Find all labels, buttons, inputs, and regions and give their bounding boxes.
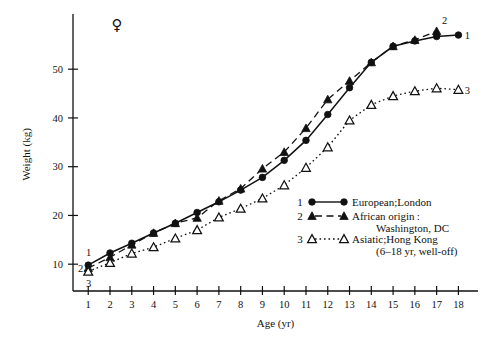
series-3-point xyxy=(214,213,223,221)
series-3-point xyxy=(323,143,332,151)
start-label-2: 2 xyxy=(78,263,83,274)
start-label-1: 1 xyxy=(86,247,91,258)
legend-marker-3-right xyxy=(340,235,349,243)
y-axis-title: Weight (kg) xyxy=(20,128,33,181)
x-tick-label: 5 xyxy=(173,299,178,310)
x-tick-label: 2 xyxy=(107,299,112,310)
legend-number-1: 1 xyxy=(297,196,303,208)
series-3-point xyxy=(345,116,354,124)
series-3-point xyxy=(258,194,267,202)
legend-marker-1-left xyxy=(309,199,316,206)
x-tick-label: 7 xyxy=(216,299,221,310)
y-tick-label: 10 xyxy=(53,259,64,270)
series-2-point xyxy=(258,164,266,172)
series-3-point xyxy=(367,100,376,108)
series-3-point xyxy=(171,234,180,242)
series-3-point xyxy=(193,226,202,234)
x-tick-label: 12 xyxy=(323,299,334,310)
series-1-point xyxy=(455,32,462,39)
x-axis-title: Age (yr) xyxy=(257,317,295,330)
series-3-point xyxy=(432,84,441,92)
growth-chart-svg: 1020304050123456789101112131415161718Age… xyxy=(0,0,493,350)
x-tick-label: 9 xyxy=(260,299,265,310)
legend-number-3: 3 xyxy=(297,233,303,245)
legend-label-3: Asiatic;Hong Kong xyxy=(352,233,438,245)
x-tick-label: 18 xyxy=(453,299,464,310)
x-tick-label: 6 xyxy=(194,299,199,310)
series-1-point xyxy=(259,174,266,181)
series-3-point xyxy=(280,181,289,189)
series-2-point xyxy=(345,77,353,85)
end-label-3: 3 xyxy=(465,85,470,96)
x-tick-label: 16 xyxy=(410,299,421,310)
legend-sublabel-2: Washington, DC xyxy=(376,222,449,234)
series-3-point xyxy=(149,243,158,251)
y-tick-label: 30 xyxy=(53,161,64,172)
series-2-point xyxy=(193,214,201,222)
x-tick-label: 4 xyxy=(151,299,157,310)
y-tick-label: 20 xyxy=(53,210,64,221)
female-sex-symbol: ♀ xyxy=(112,16,123,34)
y-tick-label: 40 xyxy=(53,113,64,124)
x-tick-label: 15 xyxy=(388,299,399,310)
x-tick-label: 14 xyxy=(366,299,377,310)
legend-marker-1-right xyxy=(341,199,348,206)
x-tick-label: 11 xyxy=(301,299,311,310)
legend-marker-2-right xyxy=(340,212,348,220)
legend-marker-2-left xyxy=(308,212,316,220)
x-tick-label: 1 xyxy=(86,299,91,310)
x-tick-label: 17 xyxy=(431,299,442,310)
series-3-point xyxy=(302,163,311,171)
start-label-3: 3 xyxy=(86,278,91,289)
series-1-point xyxy=(324,111,331,118)
x-tick-label: 3 xyxy=(129,299,134,310)
legend-number-2: 2 xyxy=(297,210,303,222)
series-2-point xyxy=(432,27,440,35)
x-tick-label: 13 xyxy=(344,299,355,310)
series-3-point xyxy=(236,204,245,212)
legend-label-2: African origin : xyxy=(352,210,420,222)
legend-sublabel-3: (6–18 yr, well-off) xyxy=(376,245,458,258)
series-1-point xyxy=(303,137,310,144)
series-3-point xyxy=(454,85,463,93)
x-tick-label: 10 xyxy=(279,299,290,310)
end-label-2: 2 xyxy=(442,15,447,26)
end-label-1: 1 xyxy=(465,30,470,41)
chart-figure: 1020304050123456789101112131415161718Age… xyxy=(0,0,493,350)
series-1-point xyxy=(346,84,353,91)
x-tick-label: 8 xyxy=(238,299,243,310)
legend-label-1: European;London xyxy=(352,196,432,208)
y-tick-label: 50 xyxy=(53,64,64,75)
series-1-point xyxy=(281,157,288,164)
